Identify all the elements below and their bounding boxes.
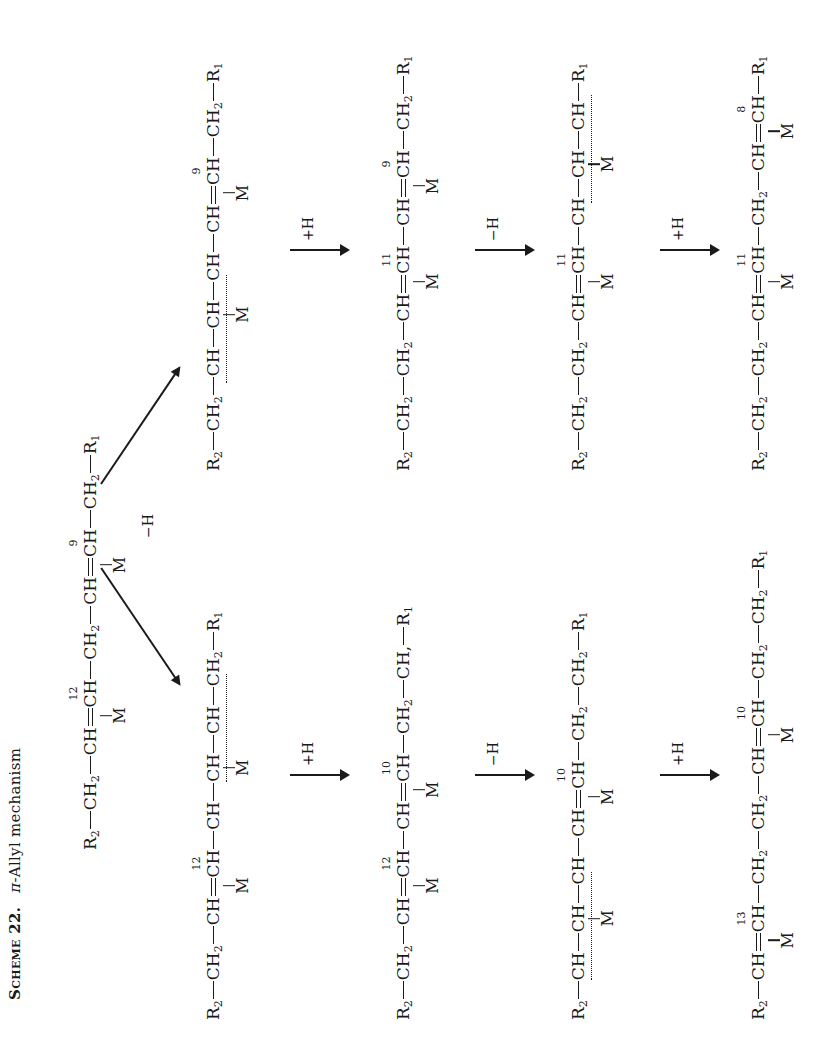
- starting-compound: R2CH2CH12CHMCH2CH9CHMCH2R1: [82, 434, 101, 850]
- atom-r1: R1: [82, 434, 101, 454]
- right-intermediate-2: R2CH2CH2CH11CHMCH9CHMCH2R1: [395, 55, 414, 471]
- arrow-label: +H: [670, 217, 686, 241]
- metal-coordination: M: [223, 185, 251, 201]
- atom-ch2: CH2: [82, 625, 101, 660]
- metal-coordination: M: [413, 273, 441, 289]
- arrow-step1-right: [290, 249, 348, 251]
- left-product: R2CH13CHMCH2CH2CH10CHMCH2CH2R1: [750, 550, 769, 1020]
- metal-coordination: M: [588, 789, 616, 805]
- scheme-number: Scheme 22.: [6, 907, 24, 1000]
- arrow-label: +H: [300, 742, 316, 766]
- left-intermediate-2: R2CH2CH12CHMCH10CHMCH2CH,R1: [395, 606, 414, 1020]
- left-intermediate-3: R2CHCHMCHCH10CHMCH2CH2R1: [570, 611, 589, 1020]
- metal-coordination: M: [768, 123, 796, 139]
- carbon-number: 9: [68, 540, 79, 547]
- atom-ch: CH: [82, 728, 99, 756]
- metal-coordination: M: [413, 178, 441, 194]
- metal-coordination: M: [223, 877, 251, 893]
- allyl-dotted-bond: [591, 872, 592, 980]
- arrow-label: −H: [485, 742, 501, 766]
- metal-coordination: M: [768, 932, 796, 948]
- scheme-caption: -Allyl mechanism: [6, 748, 24, 883]
- arrow-step2-right: [475, 249, 533, 251]
- atom-ch-12: 12CHM: [82, 680, 99, 708]
- arrow-label: +H: [300, 217, 316, 241]
- atom-ch-9: 9CHM: [82, 529, 99, 557]
- arrow-step3-right: [660, 249, 718, 251]
- atom-r2: R2: [82, 830, 101, 850]
- right-intermediate-3: R2CH2CH2CH11CHMCHCHMCHR1: [570, 62, 589, 471]
- metal-coordination: M: [413, 877, 441, 893]
- arrow-step1-left: [290, 774, 348, 776]
- branch-arrow-left: [100, 567, 180, 684]
- metal-coordination: M: [223, 306, 251, 322]
- atom-ch2: CH2: [82, 474, 101, 509]
- metal-coordination: M: [588, 910, 616, 926]
- metal-coordination: M: [413, 782, 441, 798]
- atom-ch: CH: [82, 577, 99, 605]
- scheme-title: Scheme 22.π-Allyl mechanism: [6, 748, 24, 1000]
- metal-coordination: M: [588, 273, 616, 289]
- scheme-page: Scheme 22.π-Allyl mechanism R2CH2CH12CHM…: [0, 0, 838, 1046]
- metal-coordination: M: [768, 727, 796, 743]
- right-intermediate-1: R2CH2CHCHMCHCH9CHMCH2R1: [205, 62, 224, 471]
- arrow-label: +H: [670, 742, 686, 766]
- metal-coordination: M: [100, 707, 128, 723]
- branch-label: −H: [140, 514, 156, 538]
- carbon-number: 12: [68, 687, 79, 701]
- allyl-dotted-bond: [226, 275, 227, 383]
- arrow-label: −H: [485, 217, 501, 241]
- pi-symbol: π: [6, 883, 24, 893]
- allyl-dotted-bond: [591, 95, 592, 203]
- metal-coordination: M: [588, 156, 616, 172]
- branch-arrow-right: [100, 367, 180, 484]
- left-intermediate-1: R2CH2CH12CHMCHCHMCHCH2R1: [205, 611, 224, 1020]
- metal-coordination: M: [223, 760, 251, 776]
- allyl-dotted-bond: [226, 674, 227, 782]
- right-product: R2CH2CH2CH11CHMCH2CH8CHMR1: [750, 55, 769, 471]
- atom-ch-12: 12CHM: [205, 850, 222, 878]
- metal-coordination: M: [768, 273, 796, 289]
- arrow-step3-left: [660, 774, 718, 776]
- atom-ch2: CH2: [82, 775, 101, 810]
- arrow-step2-left: [475, 774, 533, 776]
